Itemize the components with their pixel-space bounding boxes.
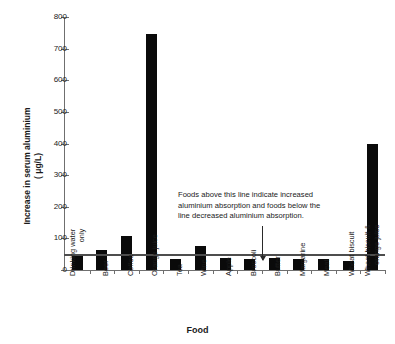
y-axis-title: Increase in serum aluminium ( μg/L): [22, 71, 44, 261]
x-tick-label-line: only: [77, 229, 86, 276]
x-tick: [287, 270, 288, 274]
chart-figure: Increase in serum aluminium ( μg/L) 0100…: [0, 0, 395, 344]
x-tick-label: Butter: [274, 256, 283, 276]
x-tick-label-line: Coffee: [127, 254, 136, 276]
reference-line: [64, 254, 385, 256]
plot-area: 0100200300400500600700800 Foods above th…: [65, 17, 385, 270]
y-tick-label: 600: [27, 76, 67, 84]
x-tick: [385, 270, 386, 274]
x-tick-label: Wine: [200, 259, 209, 276]
x-tick: [311, 270, 312, 274]
x-tick-label: Wheat biscuit &orange juice: [364, 225, 381, 276]
x-tick: [336, 270, 337, 274]
x-tick-label-line: Beer: [102, 260, 111, 276]
x-tick: [360, 270, 361, 274]
y-tick-label: 200: [27, 203, 67, 211]
annotation-arrow-icon: [262, 226, 263, 260]
x-tick-label-line: Drinking water: [69, 229, 78, 276]
x-tick-label: Meat: [323, 260, 332, 276]
y-tick-label: 500: [27, 108, 67, 116]
x-tick: [114, 270, 115, 274]
x-tick-label-line: Wine: [200, 259, 209, 276]
x-axis-title: Food: [0, 325, 395, 335]
x-tick-label-line: orange juice: [373, 225, 382, 276]
y-tick-label: 300: [27, 171, 67, 179]
x-tick-label-line: Broccoli: [250, 250, 259, 276]
y-tick-label: 100: [27, 234, 67, 242]
x-tick: [237, 270, 238, 274]
x-tick: [213, 270, 214, 274]
x-tick-label: Drinking wateronly: [69, 229, 86, 276]
x-tick-label: Orange juice: [151, 234, 160, 276]
x-tick-label-line: Meat: [323, 260, 332, 276]
annotation-line-1: Foods above this line indicate increased: [178, 190, 378, 201]
x-tick-label-line: Wheat biscuit: [348, 232, 357, 276]
x-tick: [188, 270, 189, 274]
annotation-line-3: line decreased aluminium absorption.: [178, 211, 378, 222]
x-tick-label-line: Butter: [274, 256, 283, 276]
x-tick: [90, 270, 91, 274]
x-tick-label-line: Tea: [176, 264, 185, 276]
x-tick-label: Margarine: [299, 243, 308, 276]
x-tick: [163, 270, 164, 274]
x-tick-label: Apple: [225, 257, 234, 276]
x-tick-label-line: Margarine: [299, 243, 308, 276]
x-tick: [139, 270, 140, 274]
x-tick-label-line: Orange juice: [151, 234, 160, 276]
x-tick-label: Beer: [102, 260, 111, 276]
x-tick-label: Wheat biscuit: [348, 232, 357, 276]
annotation-text: Foods above this line indicate increased…: [178, 190, 378, 222]
y-tick-label: 0: [27, 266, 67, 274]
y-tick-label: 400: [27, 140, 67, 148]
y-tick-label: 700: [27, 45, 67, 53]
x-tick-label-line: Apple: [225, 257, 234, 276]
x-tick-label: Tea: [176, 264, 185, 276]
y-axis-title-line2: ( μg/L): [33, 71, 44, 261]
y-tick-label: 800: [27, 13, 67, 21]
x-tick-label: Coffee: [127, 254, 136, 276]
x-tick-label: Broccoli: [250, 250, 259, 276]
annotation-line-2: aluminium absorption and foods below the: [178, 201, 378, 212]
x-tick: [262, 270, 263, 274]
